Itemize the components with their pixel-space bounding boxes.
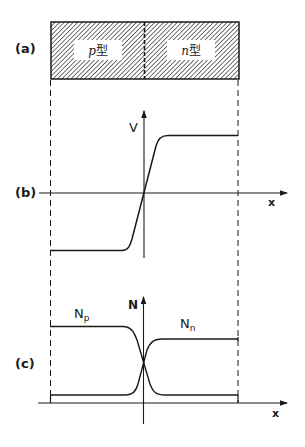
panel-c-n-axis-label: N [128, 298, 138, 312]
p-region-label: p型 [74, 40, 122, 60]
panel-a: (a) p型 n型 [15, 22, 239, 79]
panel-c: (c) x N Np Nn [15, 297, 287, 424]
panel-b-x-axis-label: x [268, 196, 275, 209]
np-label: Np [74, 306, 90, 323]
panel-c-x-axis-label: x [272, 407, 279, 420]
panel-b-label: (b) [15, 185, 36, 200]
panel-b-v-axis-label: V [129, 120, 138, 135]
panel-c-label: (c) [15, 356, 35, 371]
svg-text:n型: n型 [181, 44, 201, 58]
svg-text:p型: p型 [88, 44, 108, 58]
panel-b: (b) x V [15, 111, 287, 258]
nn-label: Nn [180, 316, 195, 333]
n-region-label: n型 [167, 40, 215, 60]
pn-junction-figure: (a) p型 n型 (b) x V [0, 0, 305, 447]
panel-a-label: (a) [15, 41, 36, 56]
